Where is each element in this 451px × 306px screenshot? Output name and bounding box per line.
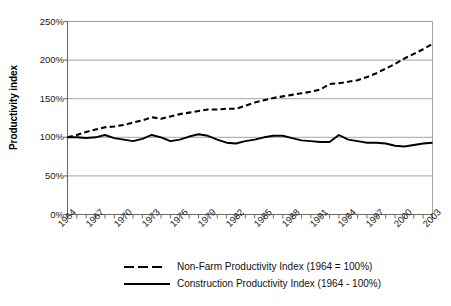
series-line-non-farm xyxy=(68,44,433,137)
legend-label-construction: Construction Productivity Index (1964 - … xyxy=(177,278,381,289)
legend-item-non-farm: Non-Farm Productivity Index (1964 = 100%… xyxy=(0,258,451,275)
solid-line-icon xyxy=(124,279,170,289)
dashed-line-icon xyxy=(124,262,170,272)
legend-item-construction: Construction Productivity Index (1964 - … xyxy=(0,275,451,292)
legend-label-non-farm: Non-Farm Productivity Index (1964 = 100%… xyxy=(177,261,372,272)
chart-legend: Non-Farm Productivity Index (1964 = 100%… xyxy=(0,258,451,292)
productivity-index-chart: Productivity index 250%200%150%100%50%0%… xyxy=(0,0,451,306)
series-line-construction xyxy=(68,134,433,146)
